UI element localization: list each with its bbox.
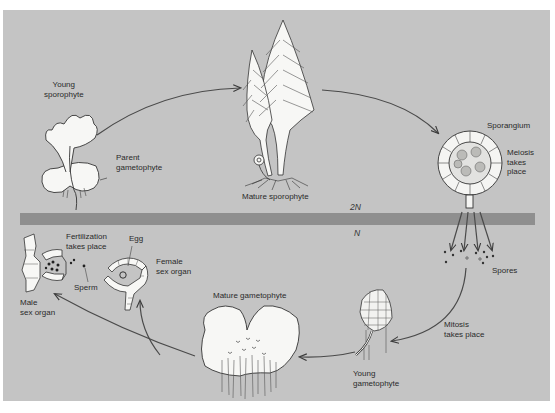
young-sporophyte-illustration [42, 115, 107, 210]
label-male-sex-organ: Male sex organ [20, 298, 55, 317]
label-young-sporophyte: Young sporophyte [44, 80, 84, 99]
arrow-mature-gametophyte-to-female [140, 301, 160, 355]
sporangium-illustration [438, 131, 502, 208]
life-cycle-illustration [0, 0, 555, 413]
label-meiosis: Meiosis takes place [507, 148, 534, 177]
label-spores: Spores [492, 266, 517, 276]
label-egg: Egg [129, 234, 143, 244]
arrow-mature-sporophyte-to-sporangium [322, 90, 438, 133]
arrow-sporangium-to-spores-3 [474, 212, 478, 250]
spores-illustration [444, 250, 494, 264]
arrow-young-to-mature-sporophyte [97, 88, 240, 135]
mature-gametophyte-illustration [202, 306, 300, 399]
mature-sporophyte-illustration [243, 20, 314, 190]
label-parent-gametophyte: Parent gametophyte [116, 153, 162, 172]
arrow-sporangium-to-spores-4 [480, 212, 492, 250]
label-young-gametophyte: Young gametophyte [353, 369, 399, 388]
female-sex-organ-illustration [104, 246, 148, 310]
label-female-sex-organ: Female sex organ [156, 257, 191, 276]
label-mature-gametophyte: Mature gametophyte [213, 291, 286, 301]
label-mature-sporophyte: Mature sporophyte [242, 192, 309, 202]
ploidy-label-haploid: N [354, 228, 360, 238]
label-sporangium: Sporangium [487, 121, 530, 131]
ploidy-label-diploid: 2N [350, 202, 361, 212]
arrow-young-to-mature-gametophyte [300, 352, 355, 357]
label-mitosis: Mitosis takes place [444, 320, 484, 339]
arrow-sporangium-to-spores-1 [451, 212, 462, 250]
label-sperm: Sperm [74, 283, 98, 293]
young-gametophyte-illustration [356, 290, 392, 360]
label-fertilization: Fertilization takes place [66, 232, 107, 251]
arrow-sporangium-to-spores-2 [464, 212, 468, 250]
